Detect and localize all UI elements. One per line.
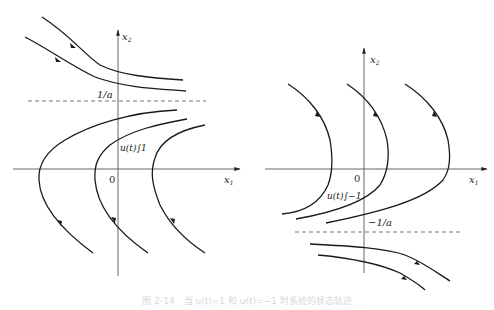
figure-caption: 图 2-14 当 u(t)=1 和 u(t)=−1 时系统的状态轨迹 (0, 294, 494, 307)
left-lower-trajectory-3 (152, 125, 205, 253)
right-x2-axis-label: x2 (370, 54, 380, 66)
right-upper-trajectory-1 (282, 84, 332, 214)
left-phase-plot: x2 x1 0 1/a u(t)∫1 (13, 17, 240, 276)
right-control-label: u(t)∫−1 (327, 191, 361, 201)
right-phase-plot: x2 x1 0 −1/a u(t)∫−1 (265, 48, 487, 290)
left-asymptote-label: 1/a (97, 89, 113, 100)
phase-portrait-figure: x2 x1 0 1/a u(t)∫1 x2 x1 0 −1/a u(t)∫−1 (0, 0, 494, 310)
right-x1-axis-label: x1 (469, 174, 478, 186)
right-origin-label: 0 (354, 173, 360, 184)
left-control-label: u(t)∫1 (120, 143, 147, 153)
left-origin-label: 0 (109, 174, 115, 185)
left-x1-axis-label: x1 (224, 174, 233, 186)
left-upper-trajectory-2 (25, 37, 186, 91)
left-lower-trajectory-2 (95, 119, 187, 253)
left-lower-trajectory-1 (39, 110, 177, 253)
left-x2-axis-label: x2 (122, 31, 132, 43)
right-lower-trajectory-1 (310, 244, 450, 281)
right-lower-trajectory-2 (318, 255, 425, 290)
right-asymptote-label: −1/a (368, 217, 392, 228)
left-upper-trajectory-1 (42, 17, 183, 80)
